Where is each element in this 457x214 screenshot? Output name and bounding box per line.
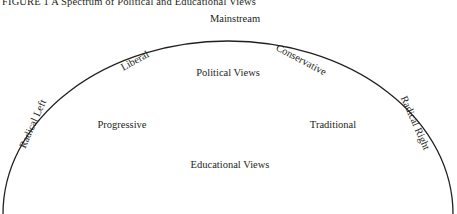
spectrum-arc-graphic [0, 0, 457, 214]
label-educational-views: Educational Views [191, 159, 270, 171]
label-progressive: Progressive [98, 119, 147, 131]
label-traditional: Traditional [310, 119, 356, 131]
label-political-views: Political Views [196, 67, 260, 79]
label-mainstream: Mainstream [210, 13, 260, 25]
figure-container: FIGURE 1 A Spectrum of Political and Edu… [0, 0, 457, 214]
